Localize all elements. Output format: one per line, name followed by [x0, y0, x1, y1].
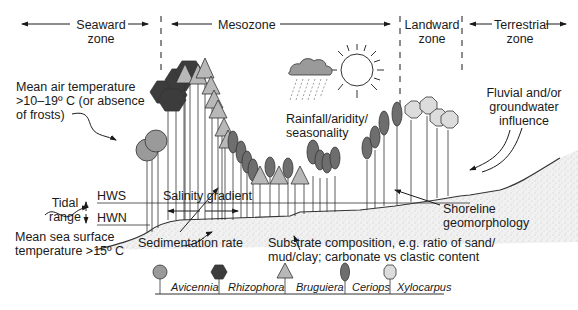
zone-terrestrial: Terrestrial zone — [494, 18, 546, 46]
zone-mesozone: Mesozone — [218, 18, 274, 32]
zone-label: zone — [494, 32, 546, 46]
zone-label: Seaward — [76, 18, 126, 32]
zone-label: Landward — [404, 18, 460, 32]
seaward-avicennia — [136, 130, 167, 232]
fluvial-annotation: Fluvial and/or groundwater influence — [478, 86, 570, 128]
legend-label-rhizophora: Rhizophora — [228, 280, 284, 294]
zone-landward: Landward zone — [404, 18, 460, 46]
hwn-label: HWN — [97, 211, 127, 225]
ceriops-trees-landward — [362, 102, 402, 210]
zone-seaward: Seaward zone — [76, 18, 126, 46]
salinity-gradient-label: Salinity gradient — [163, 189, 252, 203]
rainfall-annotation: Rainfall/aridity/ seasonality — [286, 112, 368, 140]
zone-label: Mesozone — [218, 18, 274, 32]
hws-label: HWS — [97, 189, 126, 203]
zone-label: zone — [404, 32, 460, 46]
substrate-annotation: Substrate composition, e.g. ratio of san… — [268, 236, 495, 264]
mixed-trees — [251, 140, 340, 217]
tidal-range-label: Tidal range — [48, 196, 82, 224]
sun-cloud-rain-icon — [289, 44, 384, 100]
legend-label-xylocarpus: Xylocarpus — [397, 280, 451, 294]
zone-label: Terrestrial — [494, 18, 546, 32]
legend-label-avicennia: Avicennia — [171, 280, 219, 294]
legend-label-ceriops: Ceriops — [352, 280, 390, 294]
shoreline-annotation: Shoreline geomorphology — [443, 202, 529, 230]
sea-temperature-annotation: Mean sea surface temperature >15º C — [15, 230, 124, 258]
sedimentation-rate-label: Sedimentation rate — [138, 236, 243, 250]
legend-label-bruguiera: Bruguiera — [296, 280, 344, 294]
xylocarpus-trees — [405, 97, 458, 202]
mangrove-zonation-diagram: Seaward zone Mesozone Landward zone Terr… — [0, 0, 578, 310]
zone-label: zone — [76, 32, 126, 46]
air-temperature-annotation: Mean air temperature >10–19º C (or absen… — [16, 80, 145, 122]
ceriops-trees-mesozone — [228, 131, 258, 220]
